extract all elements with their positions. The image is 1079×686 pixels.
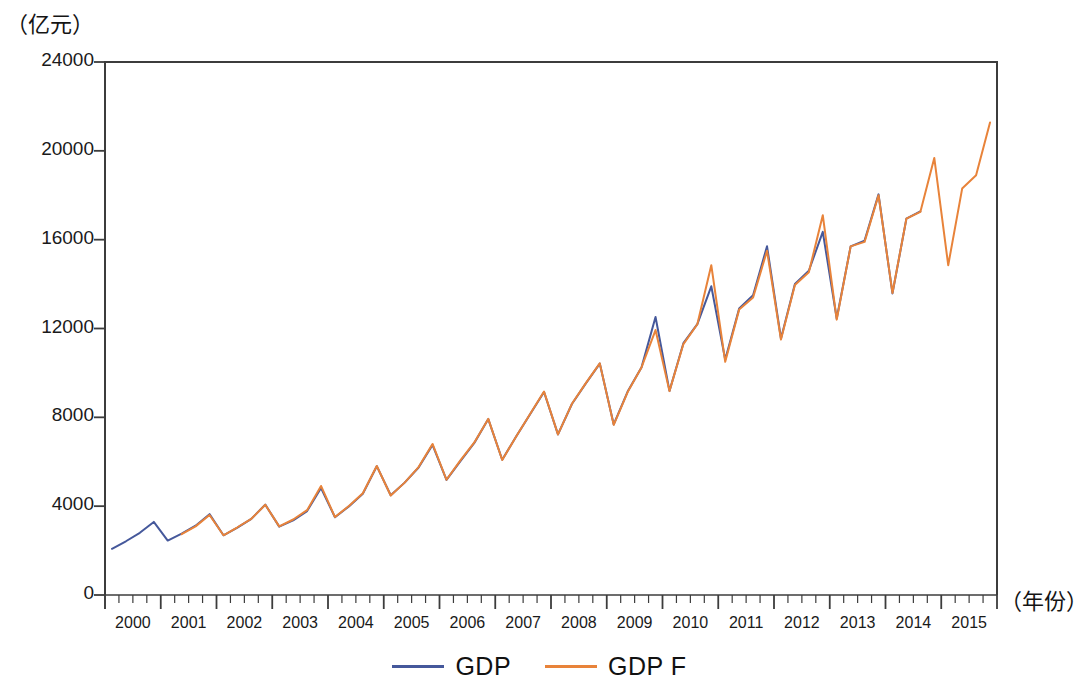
plot-area — [0, 0, 1079, 686]
gdp-line-chart: （亿元） （年份） 04000800012000160002000024000 … — [0, 0, 1079, 686]
series-lines — [112, 122, 990, 548]
legend-label: GDP — [455, 652, 511, 681]
legend-color-swatch — [392, 665, 444, 668]
series-line-gdp — [112, 194, 920, 548]
chart-legend: GDPGDP F — [0, 652, 1079, 681]
legend-item-gdp-f[interactable]: GDP F — [545, 652, 686, 681]
series-line-gdp-f — [182, 122, 990, 535]
legend-label: GDP F — [608, 652, 686, 681]
legend-color-swatch — [545, 665, 597, 668]
tick-marks — [94, 62, 997, 609]
legend-item-gdp[interactable]: GDP — [392, 652, 511, 681]
